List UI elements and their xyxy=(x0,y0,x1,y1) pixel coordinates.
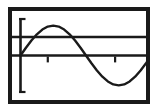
plot-frame-border xyxy=(8,7,150,104)
sine-wave-chart xyxy=(12,11,146,100)
plot-screenshot xyxy=(0,0,161,111)
plot-area xyxy=(12,11,146,100)
